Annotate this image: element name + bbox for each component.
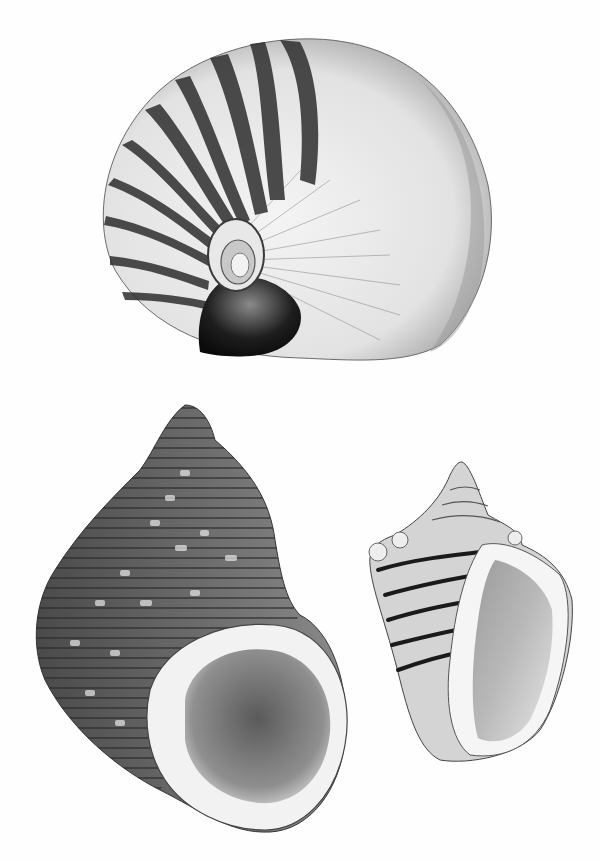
turban-snail-shell [36, 405, 347, 832]
illustration-plate [0, 0, 599, 862]
conch-shell [369, 462, 572, 761]
shells-illustration [0, 0, 599, 862]
nautilus-shell [103, 39, 491, 360]
